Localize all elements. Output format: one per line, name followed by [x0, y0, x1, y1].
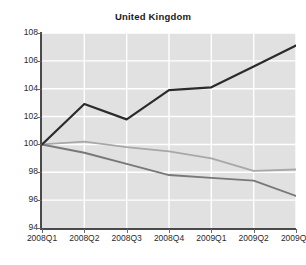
- x-tick-mark: [169, 229, 170, 233]
- y-tick-label: 100: [4, 138, 38, 148]
- x-tick-label: 2009Q3: [281, 233, 306, 243]
- y-tick-label: 106: [4, 55, 38, 65]
- y-tick-label: 108: [4, 27, 38, 37]
- y-tick-label: 96: [4, 194, 38, 204]
- y-tick-label: 102: [4, 111, 38, 121]
- plot-svg: [42, 33, 296, 228]
- chart-title: United Kingdom: [0, 11, 306, 22]
- y-tick-mark: [37, 61, 41, 62]
- y-tick-mark: [37, 144, 41, 145]
- plot-area: [42, 33, 296, 228]
- x-tick-label: 2008Q3: [112, 233, 142, 243]
- x-tick-label: 2008Q1: [27, 233, 57, 243]
- x-tick-mark: [254, 229, 255, 233]
- x-tick-label: 2009Q1: [196, 233, 226, 243]
- y-tick-label: 98: [4, 166, 38, 176]
- x-tick-label: 2008Q4: [154, 233, 184, 243]
- x-tick-mark: [127, 229, 128, 233]
- y-tick-label: 104: [4, 83, 38, 93]
- y-tick-mark: [37, 89, 41, 90]
- x-axis-tick-labels: 2008Q12008Q22008Q32008Q42009Q12009Q22009…: [42, 233, 296, 249]
- x-tick-label: 2009Q2: [239, 233, 269, 243]
- x-tick-mark: [42, 229, 43, 233]
- x-tick-mark: [296, 229, 297, 233]
- y-tick-mark: [37, 228, 41, 229]
- y-tick-mark: [37, 172, 41, 173]
- x-tick-label: 2008Q2: [69, 233, 99, 243]
- y-tick-mark: [37, 200, 41, 201]
- chart-container: United Kingdom 949698100102104106108 200…: [0, 0, 306, 265]
- x-axis-line: [40, 228, 296, 230]
- y-tick-mark: [37, 33, 41, 34]
- x-tick-mark: [211, 229, 212, 233]
- x-tick-mark: [84, 229, 85, 233]
- y-tick-label: 94: [4, 222, 38, 232]
- y-tick-mark: [37, 117, 41, 118]
- y-axis-tick-labels: 949698100102104106108: [0, 0, 38, 265]
